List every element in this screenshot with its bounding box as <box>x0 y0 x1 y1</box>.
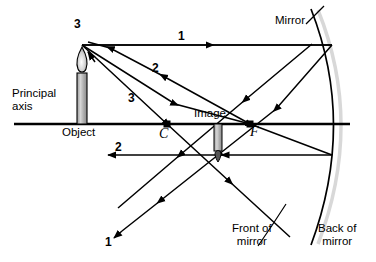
ray-3-incident-label: 3 <box>128 92 135 105</box>
back-of-mirror-label-line1: Back of <box>318 222 356 235</box>
principal-axis-label-line1: Principal <box>12 87 56 100</box>
ray-3-path-lower <box>82 45 290 237</box>
object-label: Object <box>62 126 95 139</box>
object-candle-flame <box>77 47 87 72</box>
ray-1-reflected-label: 1 <box>105 236 112 249</box>
center-of-curvature-label: C <box>159 126 168 142</box>
front-of-mirror-label: Front of mirror <box>232 222 272 248</box>
object-candle-body <box>77 73 87 124</box>
mirror-label: Mirror <box>275 14 305 27</box>
ray-1-reflected-tip <box>114 231 122 238</box>
front-of-mirror-label-line2: mirror <box>232 235 272 248</box>
ray-2-reflected-label: 2 <box>115 141 122 154</box>
ray-1-incident-label: 1 <box>178 30 185 43</box>
image-candle-flame <box>215 151 221 163</box>
ray-3-reflected-label: 3 <box>74 18 81 31</box>
image-label: Image <box>194 107 226 120</box>
ray-diagram-canvas: Principal axis Object Image Mirror Front… <box>0 0 376 262</box>
focal-point-label: F <box>250 124 259 140</box>
back-of-mirror-label-line2: mirror <box>318 235 356 248</box>
principal-axis-label: Principal axis <box>12 87 56 113</box>
principal-axis-label-line2: axis <box>12 100 56 113</box>
back-of-mirror-label: Back of mirror <box>318 222 356 248</box>
ray-2-incident-label: 2 <box>152 62 159 75</box>
image-candle-body <box>214 124 222 151</box>
front-of-mirror-label-line1: Front of <box>232 222 272 235</box>
